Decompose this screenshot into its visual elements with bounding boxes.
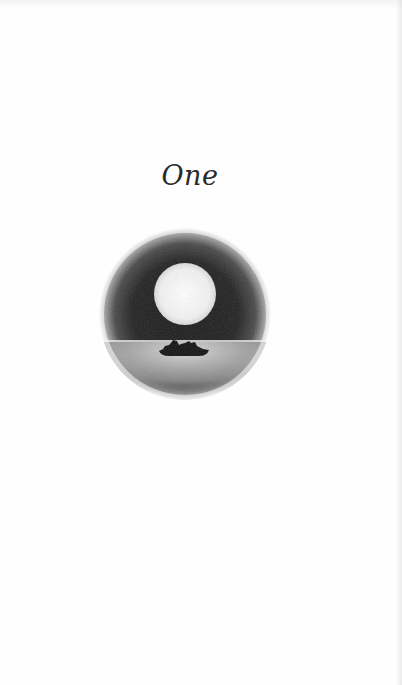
chapter-title: One [0,160,380,191]
moon-over-water-illustration [99,228,271,400]
book-page: One [0,0,402,685]
page-top-shadow [0,0,402,8]
page-edge-shadow [396,0,402,685]
